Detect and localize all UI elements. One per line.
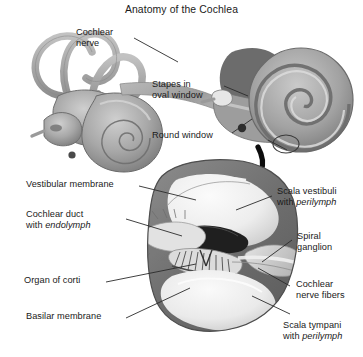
label-round-window-line1: Round window: [152, 130, 213, 141]
label-basilar-membrane: Basilar membrane: [26, 311, 101, 322]
label-cochlear-duct: Cochlear duct with endolymph: [26, 209, 91, 232]
figure-canvas: Anatomy of the Cochlea Cochlear nerve St…: [0, 0, 363, 357]
label-stapes-line1: Stapes in: [152, 79, 203, 90]
label-vestibular-membrane-line1: Vestibular membrane: [26, 179, 114, 190]
label-cochlear-duct-endolymph: endolymph: [45, 220, 90, 230]
label-cochlear-duct-with: with: [26, 220, 45, 230]
label-round-window: Round window: [152, 130, 213, 141]
label-cochlear-nerve-fibers-line2: nerve fibers: [296, 290, 345, 301]
label-cochlear-duct-line2: with endolymph: [26, 220, 91, 231]
round-window-left: [68, 151, 75, 158]
label-scala-vestibuli-perilymph: perilymph: [296, 197, 336, 207]
label-cochlear-nerve-line2: nerve: [76, 38, 113, 49]
label-organ-of-corti: Organ of corti: [24, 275, 80, 286]
spiral-limbus: [144, 222, 206, 252]
label-scala-tympani: Scala tympani with perilymph: [283, 320, 342, 343]
label-cochlear-nerve-line1: Cochlear: [76, 27, 113, 38]
label-scala-tympani-perilymph: perilymph: [302, 331, 342, 341]
label-scala-tympani-line1: Scala tympani: [283, 320, 342, 331]
oval-window-region-left: [44, 113, 82, 146]
label-cochlear-nerve: Cochlear nerve: [76, 27, 113, 50]
label-cochlear-nerve-fibers-line1: Cochlear: [296, 279, 345, 290]
label-cochlear-duct-line1: Cochlear duct: [26, 209, 91, 220]
label-scala-vestibuli: Scala vestibuli with perilymph: [277, 186, 336, 209]
label-scala-vestibuli-line2: with perilymph: [277, 197, 336, 208]
label-scala-vestibuli-with: with: [277, 197, 296, 207]
label-scala-tympani-line2: with perilymph: [283, 331, 342, 342]
label-stapes-oval-window: Stapes in oval window: [152, 79, 203, 102]
label-basilar-membrane-line1: Basilar membrane: [26, 311, 101, 322]
label-vestibular-membrane: Vestibular membrane: [26, 179, 114, 190]
figure-title: Anatomy of the Cochlea: [0, 4, 363, 15]
label-spiral-ganglion: Spiral ganglion: [297, 231, 332, 254]
label-spiral-ganglion-line1: Spiral: [297, 231, 332, 242]
label-organ-of-corti-line1: Organ of corti: [24, 275, 80, 286]
label-scala-vestibuli-line1: Scala vestibuli: [277, 186, 336, 197]
label-cochlear-nerve-fibers: Cochlear nerve fibers: [296, 279, 345, 302]
label-spiral-ganglion-line2: ganglion: [297, 242, 332, 253]
label-scala-tympani-with: with: [283, 331, 302, 341]
cochlea-shell-left: [82, 93, 163, 172]
panel-cut-cochlea: [202, 48, 353, 153]
label-stapes-line2: oval window: [152, 90, 203, 101]
